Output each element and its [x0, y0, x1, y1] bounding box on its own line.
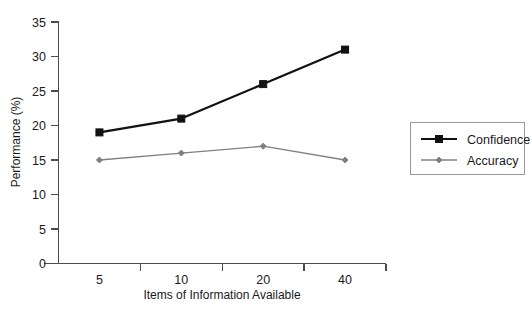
legend-label: Accuracy — [467, 154, 519, 168]
x-tick-label: 5 — [96, 273, 103, 287]
line-chart: 05101520253035 5102040 Performance (%) I… — [0, 0, 532, 312]
y-tick-label: 35 — [32, 16, 46, 30]
data-point-marker — [260, 143, 266, 149]
data-point-marker — [96, 129, 103, 136]
y-tick-label: 10 — [32, 188, 46, 202]
x-tick-label: 20 — [256, 273, 270, 287]
x-axis-tick-labels: 5102040 — [96, 273, 352, 287]
y-tick-label: 5 — [39, 223, 46, 237]
data-point-marker — [178, 115, 185, 122]
y-tick-label: 15 — [32, 154, 46, 168]
series-confidence — [96, 46, 349, 136]
legend-marker-sample — [436, 136, 443, 143]
data-series-layer — [96, 46, 349, 163]
y-axis-title: Performance (%) — [9, 97, 23, 188]
series-line — [99, 146, 345, 160]
y-tick-label: 0 — [39, 257, 46, 271]
data-point-marker — [96, 157, 102, 163]
data-point-marker — [342, 157, 348, 163]
data-point-marker — [342, 46, 349, 53]
chart-container: 05101520253035 5102040 Performance (%) I… — [0, 0, 532, 312]
y-tick-label: 30 — [32, 50, 46, 64]
data-point-marker — [260, 81, 267, 88]
x-tick-label: 40 — [338, 273, 352, 287]
series-accuracy — [96, 143, 348, 163]
data-point-marker — [178, 150, 184, 156]
chart-legend: ConfidenceAccuracy — [411, 123, 531, 175]
y-axis-ticks: 05101520253035 — [32, 16, 58, 272]
legend-label: Confidence — [467, 133, 530, 147]
x-tick-label: 10 — [174, 273, 188, 287]
series-line — [99, 50, 345, 133]
x-axis-ticks — [140, 264, 386, 272]
y-tick-label: 25 — [32, 85, 46, 99]
y-tick-label: 20 — [32, 119, 46, 133]
x-axis-title: Items of Information Available — [143, 288, 301, 302]
